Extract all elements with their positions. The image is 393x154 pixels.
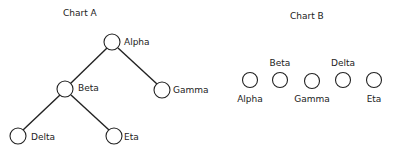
- node-eta: [106, 128, 122, 144]
- chart-b: Chart B Alpha Beta Gamma Delta Eta: [237, 11, 381, 104]
- node-b-alpha-label: Alpha: [237, 94, 263, 104]
- node-gamma: [154, 82, 170, 98]
- node-alpha: [104, 34, 120, 50]
- node-delta: [10, 128, 26, 144]
- chart-b-title: Chart B: [290, 11, 324, 21]
- node-beta: [57, 81, 73, 97]
- node-b-gamma: [305, 74, 320, 89]
- node-b-delta: [336, 73, 351, 88]
- edge-alpha-gamma: [118, 48, 157, 84]
- node-gamma-label: Gamma: [173, 85, 209, 95]
- chart-a-title: Chart A: [63, 8, 98, 18]
- node-b-eta: [367, 73, 382, 88]
- node-eta-label: Eta: [124, 132, 139, 142]
- node-alpha-label: Alpha: [124, 37, 150, 47]
- diagram-canvas: Chart A Alpha Beta Gamma Delta Eta Chart…: [0, 0, 393, 154]
- node-b-beta-label: Beta: [270, 58, 291, 68]
- node-delta-label: Delta: [31, 132, 55, 142]
- edge-beta-eta: [71, 95, 109, 130]
- edge-beta-delta: [23, 95, 60, 130]
- node-b-eta-label: Eta: [367, 94, 382, 104]
- node-b-gamma-label: Gamma: [294, 94, 330, 104]
- edge-alpha-beta: [70, 48, 107, 84]
- node-b-alpha: [243, 73, 258, 88]
- node-b-beta: [273, 73, 288, 88]
- node-b-delta-label: Delta: [331, 58, 355, 68]
- node-beta-label: Beta: [78, 83, 99, 93]
- chart-a: Chart A Alpha Beta Gamma Delta Eta: [10, 8, 209, 144]
